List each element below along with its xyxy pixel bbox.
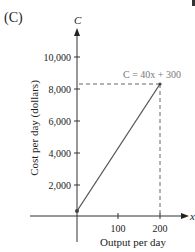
y-tick-label: 4,000 [49, 148, 72, 159]
x-axis-var: x [189, 210, 195, 222]
x-axis: x 100 200 Output per day [30, 210, 195, 248]
y-axis-var: C [74, 14, 82, 26]
x-axis-label: Output per day [100, 236, 166, 248]
x-tick-label: 200 [153, 223, 168, 234]
x-tick-label: 100 [111, 223, 126, 234]
y-tick-label: 10,000 [44, 52, 72, 63]
y-tick-label: 6,000 [49, 116, 72, 127]
y-tick-label: 2,000 [49, 180, 72, 191]
start-point [75, 209, 79, 213]
y-axis-arrow-icon [74, 28, 80, 36]
y-axis: C 2,000 4,000 6,000 8,000 10,000 Cost pe… [28, 14, 82, 242]
cost-chart: C 2,000 4,000 6,000 8,000 10,000 Cost pe… [0, 0, 195, 252]
y-axis-label: Cost per day (dollars) [28, 80, 41, 176]
equation-label: C = 40x + 300 [123, 69, 181, 80]
y-tick-label: 8,000 [49, 84, 72, 95]
series-cost-line [75, 82, 162, 213]
end-point [158, 82, 161, 85]
x-axis-arrow-icon [181, 213, 189, 219]
